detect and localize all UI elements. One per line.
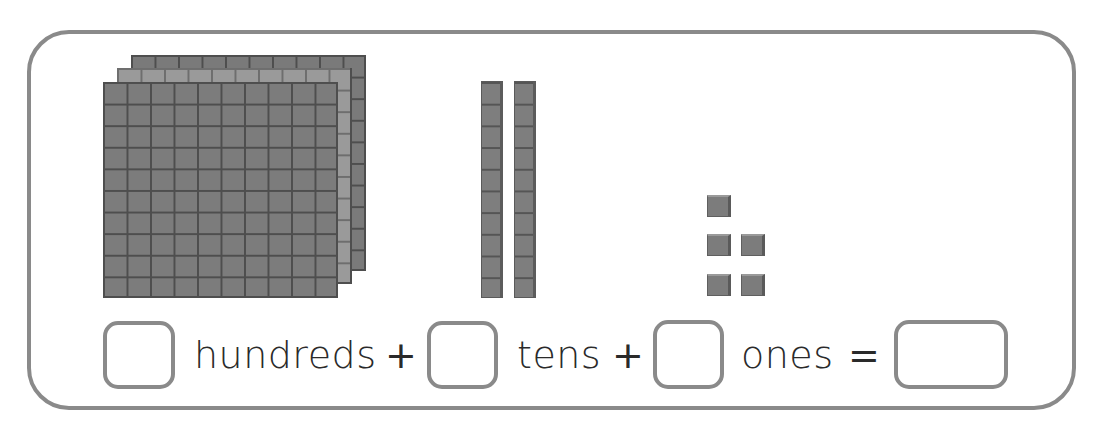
plus-sign-2: + (612, 330, 644, 380)
hundreds-label: hundreds (194, 330, 376, 380)
ten-rod-2 (514, 81, 536, 298)
plus-sign-1: + (385, 330, 417, 380)
one-cube-2 (707, 234, 731, 256)
tens-answer-box[interactable] (427, 321, 498, 389)
one-cube-4 (707, 274, 731, 296)
total-answer-box[interactable] (894, 320, 1008, 389)
one-cube-5 (741, 274, 765, 296)
tens-label: tens (517, 330, 601, 380)
ten-rod-1 (481, 81, 503, 298)
hundred-flat-1 (103, 82, 338, 298)
equals-sign: = (848, 330, 880, 380)
ones-label: ones (741, 330, 834, 380)
one-cube-3 (741, 234, 765, 256)
ones-answer-box[interactable] (653, 320, 724, 389)
one-cube-1 (707, 195, 731, 217)
hundreds-answer-box[interactable] (103, 321, 175, 389)
